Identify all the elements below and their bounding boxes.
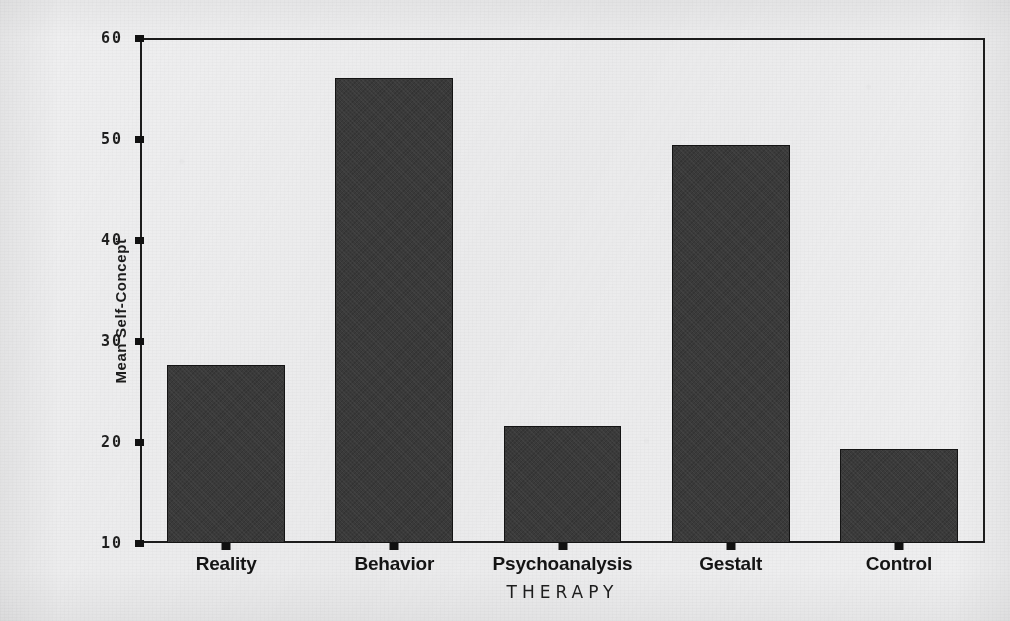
bar-slot [672, 40, 790, 543]
bars-layer [142, 40, 983, 543]
x-axis-tick-mark [894, 543, 903, 550]
y-axis-title: Mean Self-Concept [112, 238, 129, 383]
bar-slot [335, 40, 453, 543]
bar-chart-figure: 102030405060 Mean Self-Concept RealityBe… [0, 0, 1010, 621]
y-axis-tick-label: 60 [101, 29, 135, 47]
bar-psychoanalysis [504, 426, 622, 543]
y-axis-tick: 50 [101, 131, 140, 147]
x-axis-category-label: Gestalt [699, 553, 762, 575]
x-axis-category-label: Psychoanalysis [493, 553, 633, 575]
x-axis-tick-mark [222, 543, 231, 550]
x-axis-category-label: Reality [196, 553, 257, 575]
bar-gestalt [672, 145, 790, 543]
x-axis-tick-mark [390, 543, 399, 550]
x-axis-title: THERAPY [142, 582, 983, 602]
plot-area [142, 40, 983, 543]
bar-slot [840, 40, 958, 543]
x-axis-category-label: Control [866, 553, 932, 575]
x-axis-category-labels: RealityBehaviorPsychoanalysisGestaltCont… [142, 553, 983, 581]
bar-slot [504, 40, 622, 543]
x-axis-tick-mark [726, 543, 735, 550]
bar-behavior [335, 78, 453, 543]
y-axis-tick: 60 [101, 30, 140, 46]
x-axis-ticks [142, 543, 983, 553]
bar-control [840, 449, 958, 543]
y-axis-tick: 20 [101, 434, 140, 450]
y-axis-tick-label: 10 [101, 534, 135, 552]
bar-reality [167, 365, 285, 543]
x-axis-tick-mark [558, 543, 567, 550]
y-axis-tick-label: 50 [101, 130, 135, 148]
y-axis-tick-label: 20 [101, 433, 135, 451]
bar-slot [167, 40, 285, 543]
y-axis-tick: 10 [101, 535, 140, 551]
x-axis-category-label: Behavior [354, 553, 434, 575]
